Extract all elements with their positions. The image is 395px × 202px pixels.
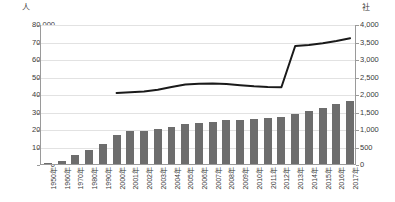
x-tick-label: 2005年 [187, 167, 195, 190]
y-tick-mark-left [37, 165, 40, 166]
x-tick-label: 2012年 [283, 167, 291, 190]
x-tick-label: 2016年 [338, 167, 346, 190]
y-tick-label-right: 3,000 [360, 56, 394, 64]
y-axis-unit-right: 社 [362, 3, 370, 13]
y-tick-label-right: 2,500 [360, 74, 394, 82]
y-tick-label-right: 1,000 [360, 126, 394, 134]
x-tick-label: 2015年 [325, 167, 333, 190]
line-series [41, 25, 357, 165]
y-tick-label-right: 4,000 [360, 21, 394, 29]
x-tick-label: 2008年 [228, 167, 236, 190]
x-tick-label: 2006年 [201, 167, 209, 190]
y-tick-label-right: 0 [360, 161, 394, 169]
y-tick-label-right: 2,000 [360, 91, 394, 99]
x-tick-label: 2011年 [270, 167, 278, 189]
y-tick-label-right: 1,500 [360, 109, 394, 117]
x-tick-label: 2009年 [242, 167, 250, 190]
x-tick-label: 2002年 [146, 167, 154, 190]
x-tick-label: 1970年 [77, 167, 85, 190]
x-tick-label: 2000年 [119, 167, 127, 190]
x-tick-label: 1980年 [91, 167, 99, 190]
x-tick-label: 2017年 [352, 167, 360, 190]
x-tick-label: 1960年 [64, 167, 72, 190]
y-axis-unit-left: 人 [22, 3, 30, 13]
x-tick-label: 2003年 [160, 167, 168, 190]
plot-area [40, 25, 356, 165]
x-tick-label: 1990年 [105, 167, 113, 190]
y-tick-label-right: 500 [360, 144, 394, 152]
x-tick-label: 1950年 [50, 167, 58, 190]
x-tick-label: 2013年 [297, 167, 305, 190]
x-axis-labels: 1950年1960年1970年1980年1990年2000年2001年2002年… [40, 167, 356, 202]
chart-root: 人 社 010,00020,00030,00040,00050,00060,00… [0, 0, 395, 202]
x-tick-label: 2001年 [132, 167, 140, 190]
y-tick-label-right: 3,500 [360, 39, 394, 47]
x-tick-label: 2007年 [215, 167, 223, 190]
x-tick-label: 2014年 [311, 167, 319, 190]
x-tick-label: 2010年 [256, 167, 264, 190]
x-tick-label: 2004年 [174, 167, 182, 190]
